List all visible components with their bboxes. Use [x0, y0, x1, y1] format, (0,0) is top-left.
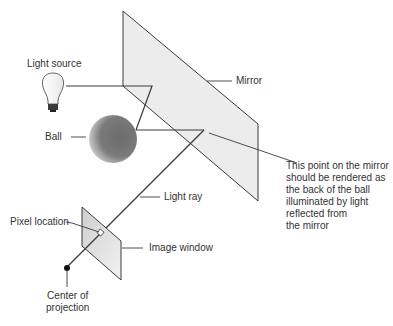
note-line: reflected from — [286, 208, 391, 220]
light-bulb-icon — [42, 73, 63, 112]
label-light-ray: Light ray — [164, 191, 202, 203]
label-center-line1: Center of — [46, 290, 89, 302]
label-image-window: Image window — [149, 242, 213, 254]
label-pixel-location: Pixel location — [10, 216, 69, 228]
note-line: the back of the ball — [286, 184, 391, 196]
label-center-line2: projection — [46, 302, 89, 314]
ball — [89, 115, 137, 163]
note-line: the mirror — [286, 220, 391, 232]
note-line: should be rendered as — [286, 172, 391, 184]
note-line: This point on the mirror — [286, 160, 391, 172]
image-window — [82, 207, 121, 280]
label-ball: Ball — [45, 131, 62, 143]
label-light-source: Light source — [27, 58, 81, 70]
annotation-note: This point on the mirror should be rende… — [286, 160, 391, 232]
label-center-of-projection: Center of projection — [46, 290, 89, 314]
mirror — [123, 11, 258, 201]
center-of-projection-dot — [64, 265, 70, 271]
note-line: illuminated by light — [286, 196, 391, 208]
label-mirror: Mirror — [236, 75, 262, 87]
